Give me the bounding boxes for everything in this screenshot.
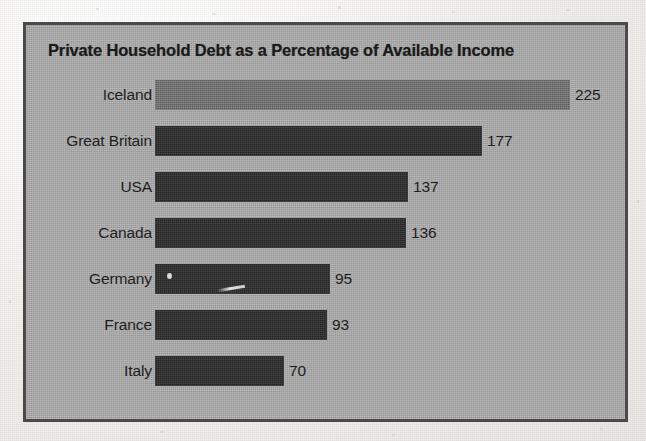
- chart-title: Private Household Debt as a Percentage o…: [48, 41, 514, 60]
- category-label-holder: Italy: [26, 356, 152, 386]
- bar-row[interactable]: Iceland 225: [26, 80, 625, 110]
- category-label: Great Britain: [28, 126, 152, 156]
- bar-row[interactable]: Great Britain 177: [26, 126, 625, 156]
- paper-fleck: [600, 428, 603, 430]
- bar-row[interactable]: France 93: [26, 310, 625, 340]
- scan-artifact-scratch: [217, 285, 245, 292]
- bar-france[interactable]: [155, 310, 327, 340]
- value-label: 177: [487, 126, 513, 156]
- category-label-holder: Germany: [26, 264, 152, 294]
- chart-frame: Private Household Debt as a Percentage o…: [23, 22, 628, 422]
- category-label-holder: Great Britain: [26, 126, 152, 156]
- paper-fleck: [452, 11, 455, 13]
- paper-fleck: [637, 200, 639, 203]
- paper-fleck: [338, 6, 341, 9]
- plot-area: Iceland 225 Great Britain 177 USA 137: [26, 80, 625, 419]
- value-label: 137: [413, 172, 439, 202]
- value-label: 136: [411, 218, 437, 248]
- category-label-holder: France: [26, 310, 152, 340]
- category-label-holder: USA: [26, 172, 152, 202]
- paper-fleck: [160, 431, 164, 433]
- category-label-holder: Iceland: [26, 80, 152, 110]
- bar-great-britain[interactable]: [155, 126, 482, 156]
- value-label: 225: [575, 80, 601, 110]
- bar-row[interactable]: Italy 70: [26, 356, 625, 386]
- bar-germany[interactable]: [155, 264, 330, 294]
- category-label: Canada: [28, 218, 152, 248]
- bar-italy[interactable]: [155, 356, 284, 386]
- paper-fleck: [9, 300, 11, 303]
- bar-iceland[interactable]: [155, 80, 570, 110]
- value-label: 70: [289, 356, 306, 386]
- value-label: 95: [335, 264, 352, 294]
- category-label: Italy: [28, 356, 152, 386]
- scan-artifact-dot: [167, 273, 172, 279]
- bar-row[interactable]: Canada 136: [26, 218, 625, 248]
- paper-fleck: [212, 13, 216, 15]
- scanned-page: Private Household Debt as a Percentage o…: [0, 0, 646, 441]
- category-label-holder: Canada: [26, 218, 152, 248]
- category-label: Germany: [28, 264, 152, 294]
- paper-fleck: [392, 434, 395, 436]
- value-label: 93: [332, 310, 349, 340]
- category-label: Iceland: [28, 80, 152, 110]
- category-label: France: [28, 310, 152, 340]
- category-label: USA: [28, 172, 152, 202]
- paper-fleck: [566, 9, 570, 11]
- paper-fleck: [96, 8, 99, 10]
- bar-row[interactable]: Germany 95: [26, 264, 625, 294]
- bar-usa[interactable]: [155, 172, 408, 202]
- bar-canada[interactable]: [155, 218, 406, 248]
- bar-row[interactable]: USA 137: [26, 172, 625, 202]
